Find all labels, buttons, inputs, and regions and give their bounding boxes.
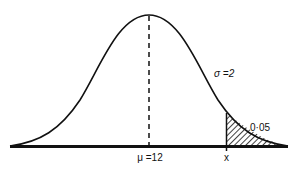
- mean-label: μ =12: [137, 152, 163, 163]
- cutoff-x-label: x: [224, 152, 229, 163]
- sigma-label: σ =2: [214, 68, 235, 79]
- normal-distribution-diagram: μ =12 x σ =2 0·05: [0, 0, 302, 175]
- tail-area-label: 0·05: [250, 122, 270, 133]
